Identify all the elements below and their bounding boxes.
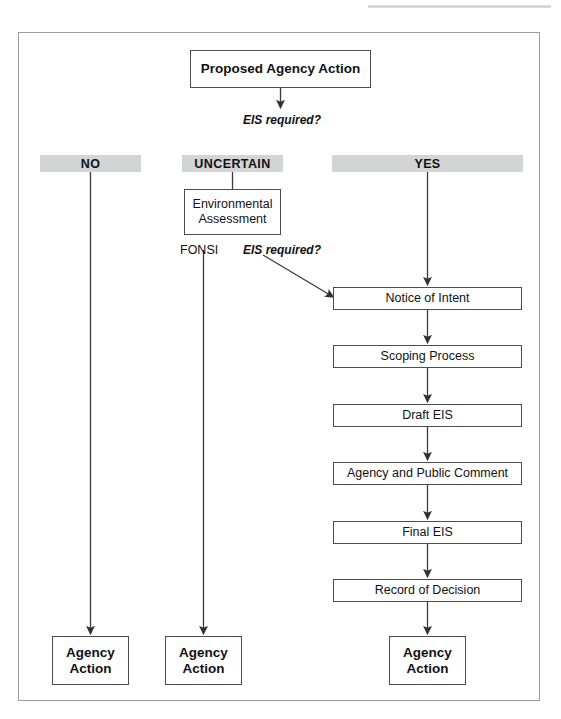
label-fonsi: FONSI bbox=[180, 243, 218, 257]
band-no-label: NO bbox=[81, 157, 101, 171]
label-eis-required-top: EIS required? bbox=[243, 113, 321, 127]
band-uncertain-label: UNCERTAIN bbox=[194, 157, 270, 171]
node-agency-action-no: AgencyAction bbox=[52, 636, 129, 685]
node-agency-action-uncertain: AgencyAction bbox=[165, 636, 242, 685]
node-notice-of-intent: Notice of Intent bbox=[333, 287, 522, 310]
node-environmental-assessment: EnvironmentalAssessment bbox=[184, 189, 281, 235]
band-yes: YES bbox=[332, 155, 523, 172]
scan-artifact-rule bbox=[368, 5, 551, 8]
node-proposed-agency-action-label: Proposed Agency Action bbox=[201, 61, 361, 77]
node-final-eis-label: Final EIS bbox=[402, 525, 453, 540]
node-agency-action-uncertain-label: AgencyAction bbox=[179, 645, 228, 677]
node-agency-action-no-label: AgencyAction bbox=[66, 645, 115, 677]
node-record-of-decision: Record of Decision bbox=[333, 579, 522, 602]
node-agency-and-public-comment-label: Agency and Public Comment bbox=[347, 466, 508, 481]
node-draft-eis-label: Draft EIS bbox=[402, 408, 453, 423]
band-no: NO bbox=[40, 155, 141, 172]
band-uncertain: UNCERTAIN bbox=[182, 155, 283, 172]
node-scoping-process-label: Scoping Process bbox=[381, 349, 475, 364]
node-agency-and-public-comment: Agency and Public Comment bbox=[333, 462, 522, 485]
label-eis-required-branch: EIS required? bbox=[243, 243, 321, 257]
band-yes-label: YES bbox=[414, 157, 440, 171]
node-proposed-agency-action: Proposed Agency Action bbox=[190, 50, 371, 88]
node-record-of-decision-label: Record of Decision bbox=[375, 583, 481, 598]
node-notice-of-intent-label: Notice of Intent bbox=[385, 291, 469, 306]
node-agency-action-yes: AgencyAction bbox=[389, 636, 466, 685]
node-agency-action-yes-label: AgencyAction bbox=[403, 645, 452, 677]
node-final-eis: Final EIS bbox=[333, 521, 522, 544]
flowchart-canvas: NO UNCERTAIN YES Proposed Agency Action … bbox=[0, 0, 561, 719]
node-environmental-assessment-label: EnvironmentalAssessment bbox=[193, 197, 273, 227]
node-draft-eis: Draft EIS bbox=[333, 404, 522, 427]
node-scoping-process: Scoping Process bbox=[333, 345, 522, 368]
